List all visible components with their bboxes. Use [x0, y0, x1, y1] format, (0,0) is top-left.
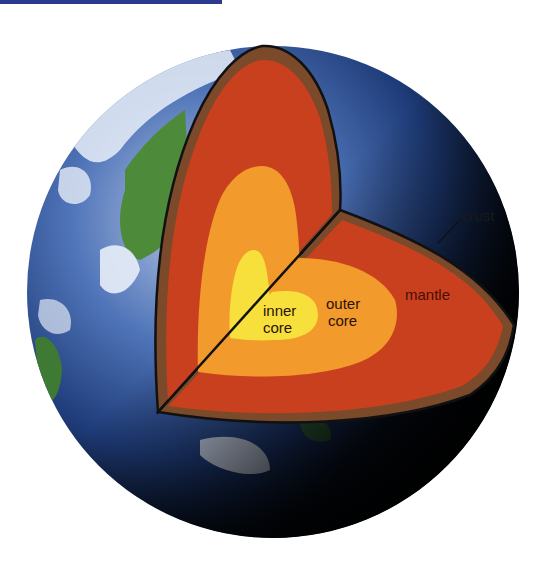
crust-label: crust — [462, 208, 495, 224]
inner-core-label-line2: core — [263, 320, 292, 336]
outer-core-label-line1: outer — [326, 296, 360, 312]
outer-core-label-line2: core — [328, 313, 357, 329]
earth-cutaway-diagram — [0, 0, 536, 574]
inner-core-label-line1: inner — [263, 303, 296, 319]
mantle-label: mantle — [405, 287, 450, 303]
